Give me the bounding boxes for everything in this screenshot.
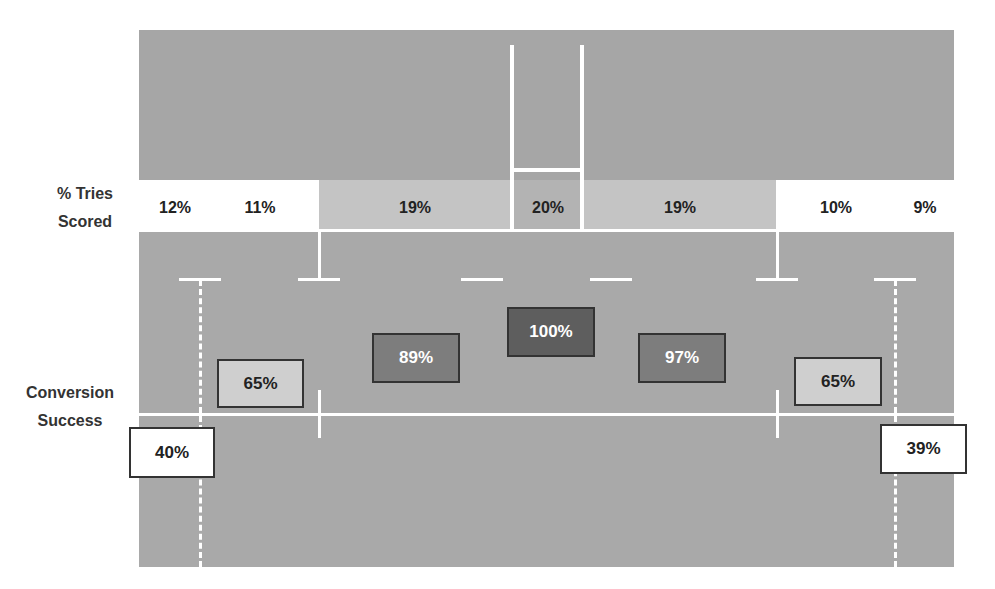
right-5m-dash: [590, 278, 632, 281]
goal-crossbar: [510, 168, 584, 172]
left-5m-dash: [461, 278, 503, 281]
tries-value-4: 20%: [518, 183, 578, 233]
tries-label-line2: Scored: [40, 208, 130, 236]
goal-post-right: [580, 45, 584, 230]
conversion-box-4: 100%: [507, 307, 595, 357]
in-goal-area: [139, 30, 954, 180]
conversion-box-5: 97%: [638, 333, 726, 383]
left-15m-tick: [298, 278, 340, 281]
tries-label: % Tries Scored: [40, 180, 130, 236]
goal-post-left: [510, 45, 514, 230]
22m-line: [139, 413, 954, 416]
tries-value-2: 11%: [230, 183, 290, 233]
conversion-label: Conversion Success: [15, 379, 125, 435]
conversion-label-line1: Conversion: [15, 379, 125, 407]
right-22m-tick: [776, 390, 779, 438]
left-5m-dashed-line: [199, 280, 202, 567]
tries-value-6: 10%: [806, 183, 866, 233]
right-15m-line: [776, 231, 779, 279]
conversion-box-6: 65%: [794, 357, 882, 406]
left-22m-tick: [318, 390, 321, 438]
tries-label-line1: % Tries: [40, 180, 130, 208]
right-15m-tick: [756, 278, 798, 281]
tries-value-7: 9%: [895, 183, 955, 233]
conversion-box-7: 39%: [880, 424, 967, 474]
conversion-box-2: 65%: [217, 359, 304, 408]
left-15m-line: [318, 231, 321, 279]
try-line: [139, 229, 954, 232]
tries-value-1: 12%: [145, 183, 205, 233]
tries-value-5: 19%: [650, 183, 710, 233]
conversion-label-line2: Success: [15, 407, 125, 435]
conversion-box-1: 40%: [129, 427, 215, 478]
tries-value-3: 19%: [385, 183, 445, 233]
conversion-box-3: 89%: [372, 333, 460, 383]
